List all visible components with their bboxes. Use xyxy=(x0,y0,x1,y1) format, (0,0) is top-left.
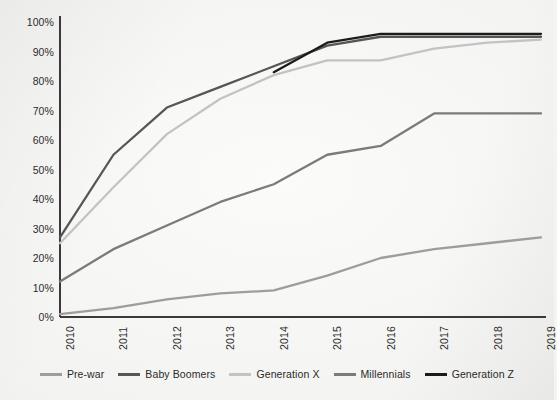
legend-swatch-icon xyxy=(118,373,140,376)
x-tick-label: 2011 xyxy=(117,327,129,350)
legend-label: Generation X xyxy=(256,368,319,380)
x-tick-label: 2019 xyxy=(545,326,557,350)
legend-item[interactable]: Generation X xyxy=(229,368,319,380)
x-tick-label: 2012 xyxy=(171,326,183,350)
legend-swatch-icon xyxy=(334,373,356,376)
x-tick-label: 2015 xyxy=(331,326,343,350)
legend-item[interactable]: Generation Z xyxy=(425,368,514,380)
legend-item[interactable]: Baby Boomers xyxy=(118,368,215,380)
legend-swatch-icon xyxy=(40,373,62,376)
x-tick-label: 2014 xyxy=(278,326,290,350)
x-tick-label: 2018 xyxy=(492,326,504,350)
legend-label: Pre-war xyxy=(67,368,104,380)
legend-item[interactable]: Pre-war xyxy=(40,368,104,380)
legend-label: Generation Z xyxy=(452,368,514,380)
legend-label: Millennials xyxy=(361,368,411,380)
legend-swatch-icon xyxy=(229,373,251,376)
legend-label: Baby Boomers xyxy=(145,368,215,380)
x-tick-label: 2017 xyxy=(438,326,450,350)
x-tick-label: 2016 xyxy=(385,326,397,350)
x-tick-label: 2013 xyxy=(224,326,236,350)
x-tick-label: 2010 xyxy=(64,326,76,350)
legend-item[interactable]: Millennials xyxy=(334,368,411,380)
legend-swatch-icon xyxy=(425,373,447,376)
chart-legend: Pre-warBaby BoomersGeneration XMillennia… xyxy=(0,368,554,380)
